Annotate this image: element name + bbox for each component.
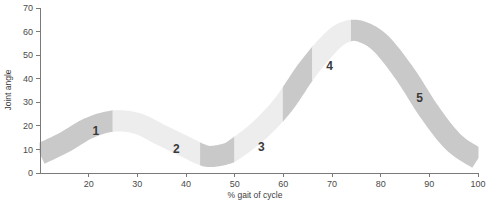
y-axis-title: Joint angle — [3, 69, 13, 110]
x-axis-ticks: 2030405060708090100 — [84, 173, 486, 189]
y-tick-label: 70 — [23, 3, 33, 13]
band-segment — [113, 0, 202, 206]
chart-canvas: 010203040506070 2030405060708090100 Join… — [0, 0, 497, 206]
x-axis-title: % gait of cycle — [228, 190, 283, 200]
y-axis-ticks: 010203040506070 — [23, 3, 40, 178]
gait-cycle-chart: 010203040506070 2030405060708090100 Join… — [0, 0, 497, 206]
y-tick-label: 10 — [23, 145, 33, 155]
x-tick-label: 70 — [327, 179, 337, 189]
x-tick-label: 50 — [230, 179, 240, 189]
x-tick-label: 40 — [181, 179, 191, 189]
y-tick-label: 30 — [23, 97, 33, 107]
band-segment — [283, 0, 313, 206]
y-tick-label: 0 — [28, 168, 33, 178]
phase-label-4: 4 — [326, 59, 333, 73]
x-tick-label: 80 — [376, 179, 386, 189]
band-segment — [351, 0, 479, 206]
y-tick-label: 20 — [23, 121, 33, 131]
x-tick-label: 30 — [132, 179, 142, 189]
y-tick-label: 40 — [23, 74, 33, 84]
band-segment — [234, 0, 284, 206]
y-tick-label: 50 — [23, 50, 33, 60]
y-tick-label: 60 — [23, 27, 33, 37]
x-tick-label: 60 — [278, 179, 288, 189]
x-tick-label: 20 — [84, 179, 94, 189]
phase-annotations: 12345 — [93, 59, 424, 156]
joint-angle-band — [40, 0, 479, 206]
phase-label-5: 5 — [416, 91, 423, 105]
phase-label-2: 2 — [173, 142, 180, 156]
x-tick-label: 100 — [470, 179, 485, 189]
band-segment — [40, 0, 114, 206]
phase-label-3: 3 — [258, 140, 265, 154]
band-segment — [200, 0, 235, 206]
phase-label-1: 1 — [93, 124, 100, 138]
x-tick-label: 90 — [424, 179, 434, 189]
